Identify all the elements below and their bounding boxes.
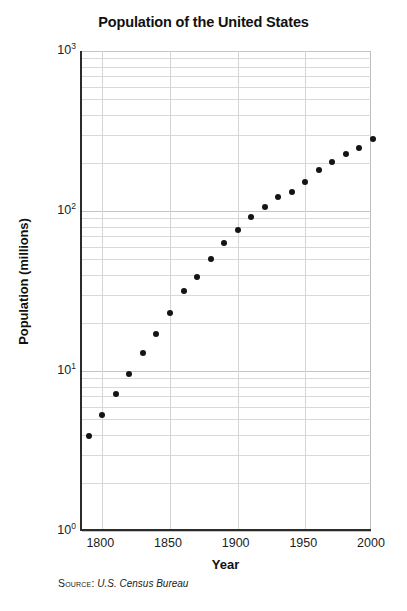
data-point xyxy=(302,179,308,185)
data-point xyxy=(262,204,268,210)
data-point xyxy=(126,371,132,377)
y-axis-tick-label: 103 xyxy=(32,44,76,57)
data-point xyxy=(86,433,92,439)
data-point xyxy=(140,350,146,356)
data-point xyxy=(194,274,200,280)
source-note: Source: U.S. Census Bureau xyxy=(58,577,188,589)
y-axis-tick-label: 101 xyxy=(32,364,76,377)
x-axis-tick-label: 1950 xyxy=(273,536,333,550)
data-point xyxy=(289,189,295,195)
data-point xyxy=(248,214,254,220)
y-axis-tick-label: 100 xyxy=(32,524,76,537)
y-tick-exponent: 1 xyxy=(71,361,76,371)
data-point xyxy=(275,194,281,200)
data-point xyxy=(356,145,362,151)
x-axis-tick-label: 1800 xyxy=(70,536,130,550)
data-point xyxy=(167,310,173,316)
data-point xyxy=(208,256,214,262)
y-tick-mantissa: 10 xyxy=(57,43,71,57)
y-tick-mantissa: 10 xyxy=(57,203,71,217)
x-axis-label: Year xyxy=(80,557,371,572)
y-axis-tick-label: 102 xyxy=(32,204,76,217)
data-points xyxy=(82,51,371,529)
data-point xyxy=(113,391,119,397)
x-axis-tick-label: 1900 xyxy=(206,536,266,550)
gridline-horizontal xyxy=(82,531,371,532)
data-point xyxy=(153,331,159,337)
source-value: U.S. Census Bureau xyxy=(97,578,188,589)
data-point xyxy=(316,167,322,173)
y-tick-mantissa: 10 xyxy=(57,523,71,537)
x-axis-tick-label: 1850 xyxy=(138,536,198,550)
plot-area xyxy=(80,51,371,531)
data-point xyxy=(329,159,335,165)
y-tick-exponent: 2 xyxy=(71,201,76,211)
y-tick-exponent: 3 xyxy=(71,41,76,51)
data-point xyxy=(99,412,105,418)
data-point xyxy=(221,240,227,246)
data-point xyxy=(343,151,349,157)
data-point xyxy=(370,136,376,142)
y-tick-mantissa: 10 xyxy=(57,363,71,377)
source-prefix: Source: xyxy=(58,577,95,589)
population-chart-figure: Population of the United States Populati… xyxy=(0,0,407,611)
data-point xyxy=(235,227,241,233)
x-axis-tick-label: 2000 xyxy=(341,536,401,550)
y-tick-exponent: 0 xyxy=(71,521,76,531)
y-axis-tick-labels: 100101102103 xyxy=(26,0,76,611)
data-point xyxy=(181,288,187,294)
